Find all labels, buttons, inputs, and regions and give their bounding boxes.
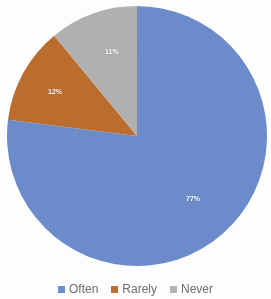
legend-item-often[interactable]: Often: [58, 283, 98, 295]
legend-swatch-never-icon: [170, 286, 177, 293]
pie-plot-area: 77% 12% 11%: [0, 0, 271, 272]
pie-slice-label-never: 11%: [105, 48, 119, 55]
pie-slice-label-rarely: 12%: [48, 88, 62, 95]
legend-item-rarely[interactable]: Rarely: [111, 283, 157, 295]
legend-label-rarely: Rarely: [122, 283, 157, 295]
pie-graphic: [0, 0, 271, 272]
pie-chart: 77% 12% 11% Often Rarely Never: [0, 0, 271, 299]
legend-swatch-rarely-icon: [111, 286, 118, 293]
legend-label-never: Never: [181, 283, 213, 295]
legend-item-never[interactable]: Never: [170, 283, 213, 295]
legend-label-often: Often: [69, 283, 98, 295]
chart-legend: Often Rarely Never: [0, 279, 271, 299]
legend-swatch-often-icon: [58, 286, 65, 293]
pie-slice-label-often: 77%: [186, 195, 200, 202]
